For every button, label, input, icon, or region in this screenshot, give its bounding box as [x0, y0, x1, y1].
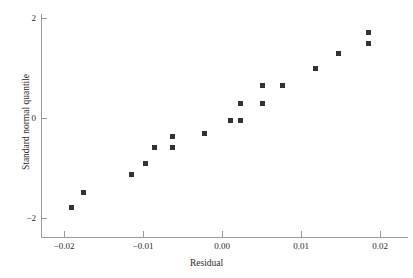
data-point: [336, 51, 341, 56]
x-tick-mark: [380, 231, 381, 237]
data-point: [238, 101, 243, 106]
data-point: [366, 30, 371, 35]
y-axis-line: [41, 14, 42, 238]
x-tick-label: −0.01: [120, 241, 166, 251]
data-point: [81, 190, 86, 195]
data-point: [313, 66, 318, 71]
x-axis-title: Residual: [0, 258, 413, 268]
x-tick-mark: [222, 231, 223, 237]
x-tick-mark: [301, 231, 302, 237]
x-tick-mark: [143, 231, 144, 237]
data-point: [143, 161, 148, 166]
data-point: [152, 145, 157, 150]
x-tick-label: 0.02: [357, 241, 403, 251]
data-point: [228, 118, 233, 123]
data-point: [280, 83, 285, 88]
x-tick-label: 0.00: [199, 241, 245, 251]
x-tick-label: −0.02: [41, 241, 87, 251]
y-tick-mark: [41, 218, 47, 219]
x-axis-line: [41, 237, 408, 238]
y-tick-label: 2: [8, 13, 36, 23]
x-tick-mark: [64, 231, 65, 237]
data-point: [170, 145, 175, 150]
data-point: [69, 205, 74, 210]
data-point: [202, 131, 207, 136]
y-tick-label: −2: [8, 213, 36, 223]
data-point: [238, 118, 243, 123]
data-point: [366, 41, 371, 46]
qq-plot-figure: 20−2 −0.02−0.010.000.010.02 Residual Sta…: [0, 0, 413, 278]
y-axis-title: Standard normal quantile: [21, 42, 31, 202]
x-tick-label: 0.01: [278, 241, 324, 251]
data-point: [260, 101, 265, 106]
data-point: [260, 83, 265, 88]
y-tick-mark: [41, 18, 47, 19]
data-point: [170, 134, 175, 139]
y-tick-mark: [41, 118, 47, 119]
data-point: [129, 172, 134, 177]
